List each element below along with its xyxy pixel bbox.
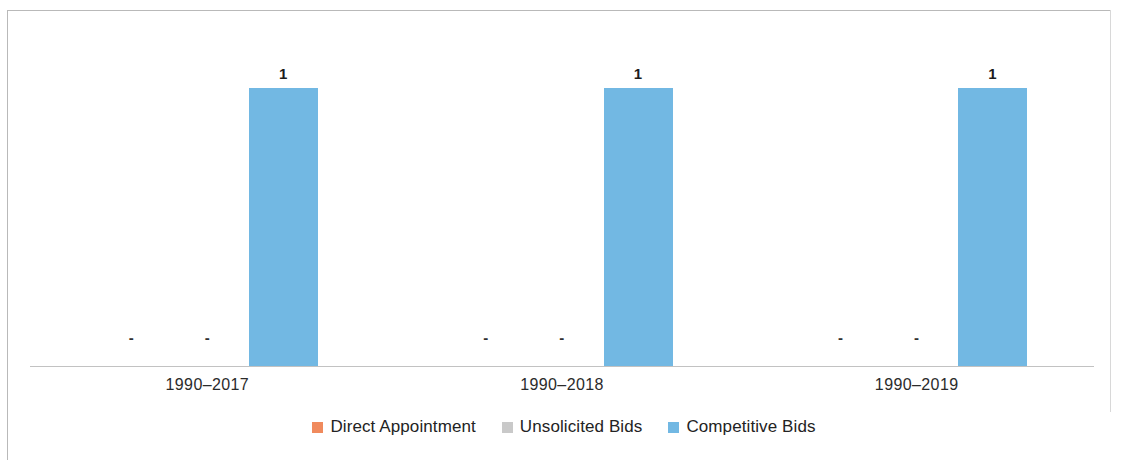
bar-value-label: 1 [604,65,673,82]
legend-label: Competitive Bids [686,417,815,437]
legend-swatch-icon [668,422,679,433]
bar-value-label: 1 [249,65,318,82]
bar-competitive-bids[interactable] [604,88,673,366]
legend-label: Direct Appointment [330,417,475,437]
bar-group-bars: - - 1 [739,11,1094,366]
bar-groups: - - 1 - - [30,11,1094,366]
bar-slot-unsolicited-bids[interactable]: - [882,11,951,366]
bar-value-label: 1 [958,65,1027,82]
bar-nodata-label: - [806,329,875,346]
bar-nodata-label: - [452,329,521,346]
legend-item-competitive-bids[interactable]: Competitive Bids [668,417,815,437]
bar-nodata-label: - [97,329,166,346]
chart-legend: Direct Appointment Unsolicited Bids Comp… [0,417,1128,437]
category-label-1990-2017: 1990–2017 [30,372,385,394]
frame-right-border [1110,10,1111,412]
bar-slot-direct-appointment[interactable]: - [97,11,166,366]
legend-swatch-icon [312,422,323,433]
bar-group: - - 1 [30,11,385,366]
bar-slot-unsolicited-bids[interactable]: - [528,11,597,366]
category-axis-line [30,366,1094,367]
category-label-1990-2018: 1990–2018 [385,372,740,394]
bar-competitive-bids[interactable] [958,88,1027,366]
legend-item-direct-appointment[interactable]: Direct Appointment [312,417,475,437]
legend-item-unsolicited-bids[interactable]: Unsolicited Bids [502,417,643,437]
bar-group: - - 1 [739,11,1094,366]
legend-label: Unsolicited Bids [520,417,643,437]
bar-competitive-bids[interactable] [249,88,318,366]
bar-slot-unsolicited-bids[interactable]: - [173,11,242,366]
legend-swatch-icon [502,422,513,433]
category-axis-labels: 1990–2017 1990–2018 1990–2019 [30,372,1094,394]
bar-group: - - 1 [385,11,740,366]
bar-slot-competitive-bids[interactable]: 1 [604,11,673,366]
bar-slot-competitive-bids[interactable]: 1 [958,11,1027,366]
bar-nodata-label: - [528,329,597,346]
bar-group-bars: - - 1 [385,11,740,366]
bar-slot-direct-appointment[interactable]: - [452,11,521,366]
bar-slot-direct-appointment[interactable]: - [806,11,875,366]
bar-slot-competitive-bids[interactable]: 1 [249,11,318,366]
bar-nodata-label: - [173,329,242,346]
bar-nodata-label: - [882,329,951,346]
bar-group-bars: - - 1 [30,11,385,366]
chart-page: - - 1 - - [0,0,1128,460]
category-label-1990-2019: 1990–2019 [739,372,1094,394]
